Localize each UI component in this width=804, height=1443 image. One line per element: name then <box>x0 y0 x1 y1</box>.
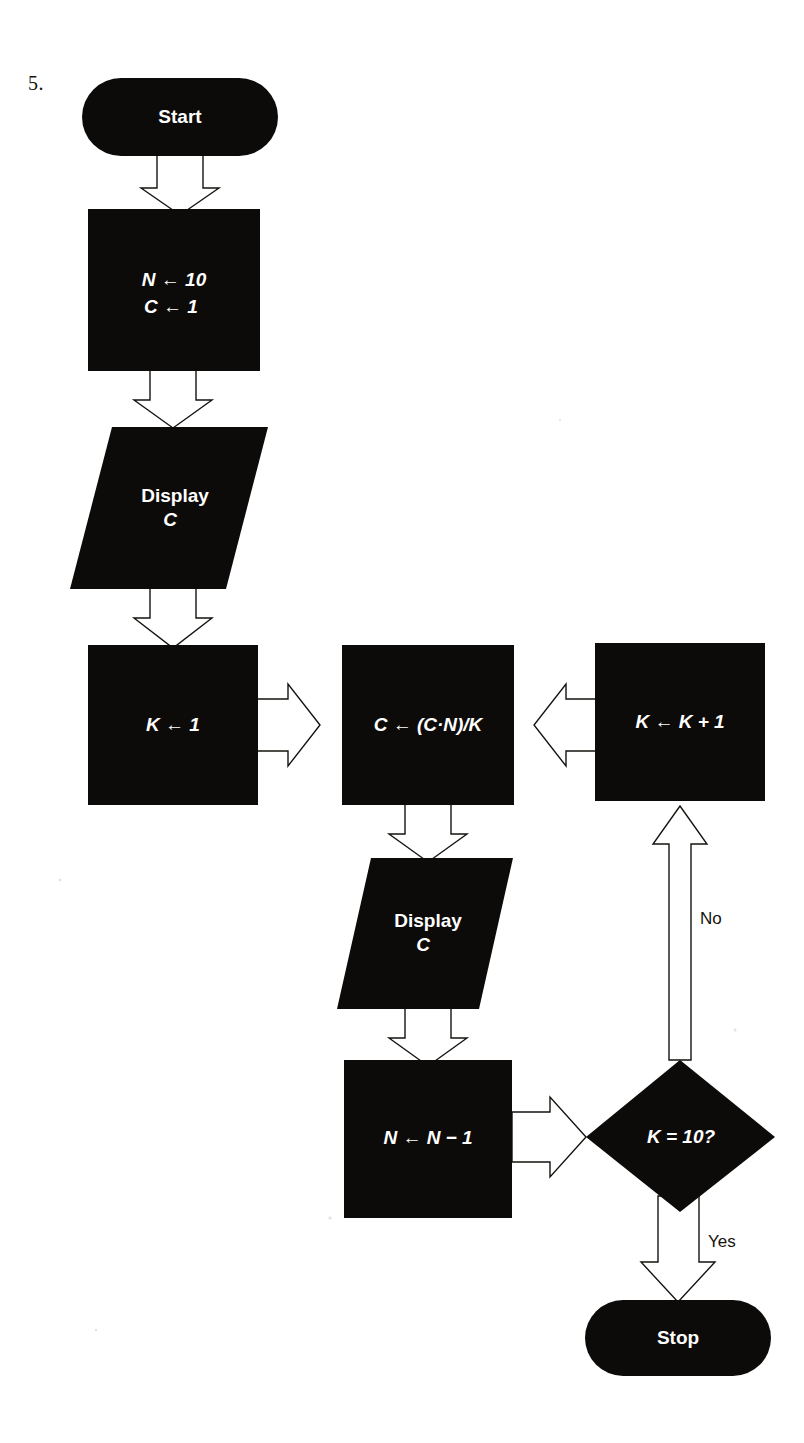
arrow-kincr-to-compute <box>534 684 604 766</box>
node-decr[interactable]: N ← N − 1 <box>344 1060 512 1218</box>
node-display2[interactable]: Display C <box>337 858 513 1009</box>
node-display2-line2: C <box>416 934 430 955</box>
arrow-init-to-display1 <box>134 362 212 428</box>
node-init-line2: C ← 1 <box>144 296 198 317</box>
node-decision-label: K = 10? <box>647 1126 716 1147</box>
node-decision[interactable]: K = 10? <box>586 1060 775 1212</box>
node-stop-label: Stop <box>657 1327 699 1348</box>
edge-label-yes: Yes <box>708 1232 736 1251</box>
node-display1-line2: C <box>163 509 177 530</box>
node-kinit[interactable]: K ← 1 <box>88 645 258 805</box>
node-compute[interactable]: C ← (C·N)/K <box>342 645 514 805</box>
arrow-display1-to-kinit <box>134 580 212 648</box>
arrow-decr-to-decision <box>512 1097 586 1177</box>
node-decr-label: N ← N − 1 <box>383 1127 472 1148</box>
node-init-line1: N ← 10 <box>142 269 207 290</box>
arrow-decision-to-stop-yes <box>641 1196 715 1302</box>
node-start-label: Start <box>158 106 202 127</box>
node-start[interactable]: Start <box>82 78 278 156</box>
flowchart-canvas: 5. <box>0 0 804 1443</box>
arrow-kinit-to-compute <box>250 684 320 766</box>
flowchart-svg: Start N ← 10 C ← 1 Display C K ← 1 C ← (… <box>0 0 804 1443</box>
node-display1-line1: Display <box>141 485 209 506</box>
arrow-compute-to-display2 <box>389 796 467 862</box>
node-display1[interactable]: Display C <box>70 427 268 589</box>
node-stop[interactable]: Stop <box>585 1300 771 1376</box>
node-kincr-label: K ← K + 1 <box>635 711 724 732</box>
arrow-start-to-init <box>141 150 219 215</box>
node-kincr[interactable]: K ← K + 1 <box>595 643 765 801</box>
edge-label-no: No <box>700 909 722 928</box>
arrow-decision-to-kincr-no <box>653 806 707 1060</box>
exercise-number: 5. <box>28 72 44 95</box>
node-compute-label: C ← (C·N)/K <box>374 714 484 735</box>
node-init[interactable]: N ← 10 C ← 1 <box>88 209 260 371</box>
arrow-display2-to-decr <box>389 1002 467 1066</box>
node-kinit-label: K ← 1 <box>146 714 200 735</box>
node-display2-line1: Display <box>394 910 462 931</box>
